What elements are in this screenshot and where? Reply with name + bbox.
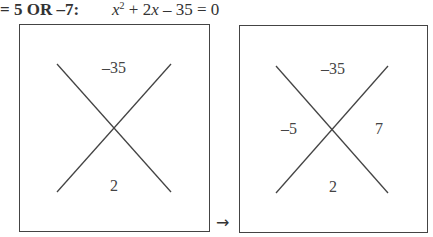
right-arrow-icon: → — [216, 213, 229, 232]
diag2-bottom-sum: 2 — [329, 178, 337, 196]
diag1-bottom-sum: 2 — [110, 177, 118, 195]
diag2-right-factor: 7 — [375, 120, 383, 138]
diag2-left-factor: –5 — [281, 120, 297, 138]
diag2-top-product: –35 — [321, 60, 345, 78]
diag1-top-product: –35 — [102, 59, 126, 77]
x-lines — [0, 0, 433, 237]
